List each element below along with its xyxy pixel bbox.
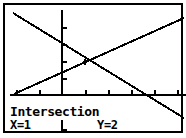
lcd-bezel: Intersection X=1 Y=2	[3, 3, 183, 133]
x-axis	[10, 94, 186, 96]
y-axis	[61, 10, 63, 96]
intersection-mode-label: Intersection	[10, 105, 99, 119]
calculator-screen: Intersection X=1 Y=2	[0, 0, 186, 138]
coordinate-readout-row: X=1 Y=2	[10, 119, 186, 133]
y-coordinate-readout: Y=2	[97, 119, 118, 132]
x-coordinate-readout: X=1	[10, 119, 31, 132]
intersection-cursor-icon	[83, 59, 87, 65]
x-axis-ticks	[16, 90, 179, 94]
status-readout-area: Intersection X=1 Y=2	[10, 104, 186, 136]
cursor-marker-icon	[61, 120, 63, 131]
